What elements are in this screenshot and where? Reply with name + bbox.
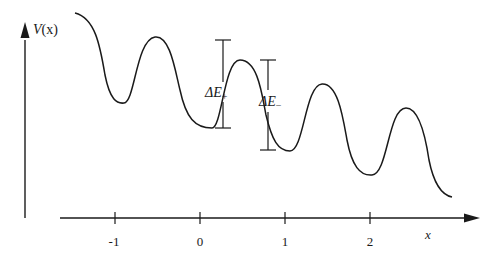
y-axis-arrow-icon: [21, 22, 30, 38]
x-axis-arrow-icon: [464, 214, 480, 223]
delta-e-plus-subscript: +: [222, 91, 228, 102]
delta-e-plus-symbol: ΔE: [205, 85, 222, 100]
delta-e-minus-subscript: −: [276, 100, 282, 111]
y-axis-label-arg: (x): [42, 22, 58, 37]
y-axis-label: V(x): [33, 23, 58, 37]
potential-diagram: [0, 0, 491, 261]
delta-e-plus-label: ΔE+: [205, 86, 227, 102]
x-tick-label: 2: [367, 235, 374, 248]
y-axis-label-symbol: V: [33, 22, 42, 37]
x-tick-label: 0: [197, 235, 204, 248]
delta-e-minus-label: ΔE−: [259, 95, 281, 111]
x-axis-label: x: [425, 228, 431, 241]
x-tick-label: -1: [109, 235, 120, 248]
delta-e-minus-symbol: ΔE: [259, 94, 276, 109]
x-tick-label: 1: [282, 235, 289, 248]
delta-e-plus-bracket: [215, 40, 231, 128]
